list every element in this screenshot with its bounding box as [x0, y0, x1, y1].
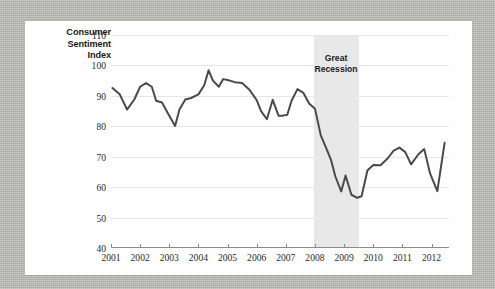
y-tick-label-100: 100: [92, 60, 106, 71]
y-tick-label-80: 80: [96, 121, 106, 132]
x-tick-label-2009: 2009: [335, 252, 354, 263]
chart-figure-card: Consumer Sentiment Index GreatRecession …: [25, 21, 472, 275]
y-tick-label-60: 60: [96, 182, 106, 193]
x-tick-label-2012: 2012: [422, 252, 441, 263]
x-axis-line: [111, 247, 449, 248]
screenshot-root: Consumer Sentiment Index GreatRecession …: [0, 0, 495, 289]
x-tick-label-2010: 2010: [364, 252, 383, 263]
x-tick-label-2006: 2006: [247, 252, 266, 263]
x-tick-label-2011: 2011: [393, 252, 412, 263]
series-line-chart: [111, 35, 449, 248]
plot-area: GreatRecession 405060708090100110 200120…: [111, 35, 449, 248]
y-tick-label-50: 50: [96, 212, 106, 223]
y-tick-label-110: 110: [92, 30, 106, 41]
x-tick-label-2005: 2005: [218, 252, 237, 263]
y-tick-label-90: 90: [96, 90, 106, 101]
x-tick-label-2008: 2008: [305, 252, 324, 263]
x-tick-label-2004: 2004: [189, 252, 208, 263]
y-tick-label-70: 70: [96, 151, 106, 162]
x-tick-label-2003: 2003: [160, 252, 179, 263]
series-polyline: [112, 70, 444, 197]
x-tick-label-2001: 2001: [101, 252, 120, 263]
x-tick-label-2007: 2007: [276, 252, 295, 263]
x-tick-label-2002: 2002: [131, 252, 150, 263]
